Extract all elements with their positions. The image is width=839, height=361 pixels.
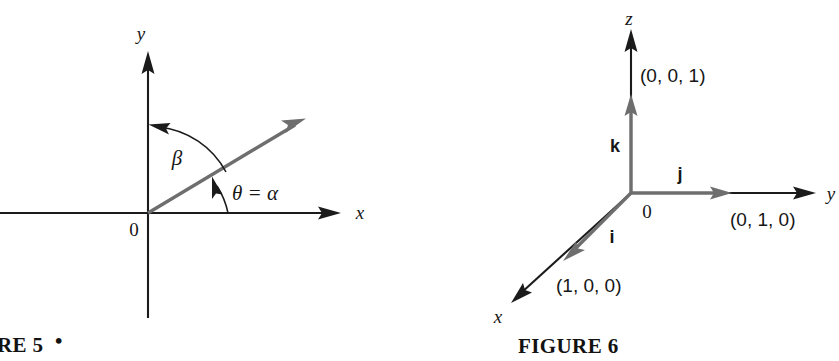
figure6-x-axis-label: x [493, 306, 503, 327]
figure6-caption: FIGURE 6 [518, 334, 619, 358]
figure5-beta-label: β [171, 146, 183, 170]
figure6-i-label: i [609, 227, 614, 247]
figure5-caption-mark: • [55, 329, 63, 353]
figure5-caption: RE 5 [0, 333, 44, 357]
figure6-j-coord-label: (0, 1, 0) [730, 209, 795, 230]
figure-5-group: y x 0 β θ = α RE 5 • [0, 23, 365, 357]
figure5-theta-arc-arrowhead [212, 177, 223, 200]
figure6-j-label: j [676, 164, 682, 184]
figure6-i-coord-label: (1, 0, 0) [556, 275, 621, 296]
figure6-y-axis-label: y [825, 183, 836, 204]
figure6-k-coord-label: (0, 0, 1) [640, 65, 705, 86]
figure-6-group: z y x 0 k j i (0, 0, 1) (0, 1, 0) (1, 0,… [493, 8, 836, 358]
figure5-origin-label: 0 [129, 219, 139, 240]
figure5-x-axis-label: x [355, 202, 365, 223]
figure6-k-label: k [610, 136, 621, 156]
figures-canvas: y x 0 β θ = α RE 5 • z y x 0 k [0, 0, 839, 361]
figure5-theta-label: θ = α [232, 181, 279, 205]
figure5-y-axis-label: y [135, 23, 146, 44]
figure6-z-axis-label: z [624, 8, 633, 29]
figure6-i-vector-line [574, 193, 631, 250]
figure6-origin-label: 0 [642, 201, 652, 222]
figure5-beta-arc [159, 127, 226, 172]
